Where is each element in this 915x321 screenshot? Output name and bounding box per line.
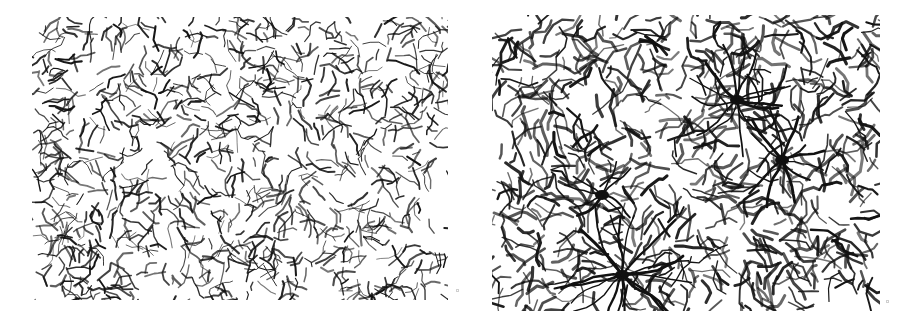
corner-marker-left	[456, 289, 459, 292]
micrograph-left	[32, 17, 448, 300]
corner-marker-right	[886, 300, 889, 303]
micrograph-right	[492, 15, 880, 311]
network-pattern-right	[492, 15, 880, 311]
network-pattern-left	[32, 17, 448, 300]
